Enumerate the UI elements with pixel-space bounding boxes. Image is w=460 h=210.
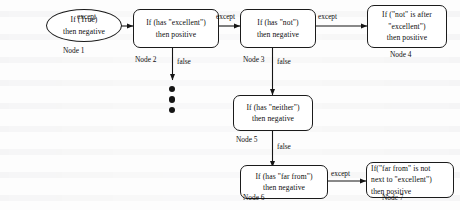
node-4-line-1: If ("not" is after: [382, 9, 432, 20]
edge-label-node2-ellipsis: false: [177, 58, 191, 65]
vertical-ellipsis: [169, 86, 175, 113]
edge-label-node2-node3: except: [216, 13, 235, 20]
node-3-line-1: If (has "not"): [257, 17, 298, 28]
node-6-line-2: then negative: [263, 182, 305, 193]
node-7-line-1: If("far from" is not: [371, 163, 430, 174]
node-7-line-2: next to "excellent"): [371, 174, 432, 185]
node-4-line-3: then positive: [387, 32, 427, 43]
node-3-label: Node 3: [243, 56, 265, 63]
node-2-line-2: then positive: [156, 29, 196, 40]
node-3-box[interactable]: If (has "not") then negative: [240, 9, 316, 48]
node-4-label: Node 4: [390, 51, 412, 58]
edge-label-node5-node6: false: [277, 143, 291, 150]
node-2-box[interactable]: If (has "excellent") then positive: [133, 9, 219, 48]
node-4-box[interactable]: If ("not" is after "excellent") then pos…: [367, 5, 447, 48]
node-1-label: Node 1: [63, 47, 85, 54]
node-5-line-2: then negative: [252, 113, 294, 124]
node-5-box[interactable]: If (has "neither") then negative: [233, 95, 313, 131]
node-5-label: Node 5: [236, 136, 258, 143]
node-6-line-1: If (has "far from"): [255, 171, 312, 182]
ellipsis-dot-3: [169, 107, 175, 113]
node-2-label: Node 2: [135, 56, 157, 63]
node-4-line-2: "excellent"): [388, 21, 425, 32]
node-5-line-1: If (has "neither"): [246, 102, 299, 113]
node-2-line-1: If (has "excellent"): [146, 17, 206, 28]
edge-label-node6-node7: except: [331, 170, 350, 177]
node-6-label: Node 6: [243, 194, 265, 201]
node-7-box[interactable]: If("far from" is not next to "excellent"…: [366, 162, 454, 198]
diagram-canvas: If (True) then negative Node 1 If (has "…: [0, 0, 460, 210]
ellipsis-dot-1: [169, 86, 175, 92]
node-3-line-2: then negative: [257, 29, 299, 40]
edge-label-node3-node5: false: [277, 58, 291, 65]
ellipsis-dot-2: [169, 96, 175, 102]
edge-label-node1-node2: except: [77, 13, 96, 20]
node-7-label: Node 7: [382, 194, 404, 201]
edge-label-node3-node4: except: [318, 13, 337, 20]
node-1-line-2: then negative: [63, 26, 105, 37]
